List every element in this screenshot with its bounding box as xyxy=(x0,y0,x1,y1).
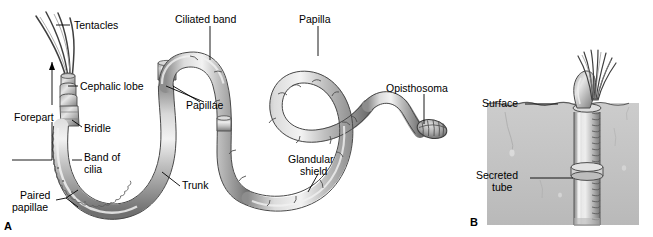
label-band-of-cilia-line1: Band of xyxy=(84,152,120,164)
label-bridle: Bridle xyxy=(84,123,111,135)
panel-b-illustration xyxy=(487,50,639,225)
label-surface: Surface xyxy=(482,98,518,110)
label-papillae: Papillae xyxy=(186,100,223,112)
label-tentacles: Tentacles xyxy=(74,20,118,32)
secreted-tube-illustration xyxy=(571,104,603,225)
label-secreted-tube-line2: tube xyxy=(492,182,512,194)
label-secreted-tube-line1: Secreted xyxy=(476,170,518,182)
label-band-of-cilia-line2: cilia xyxy=(84,164,102,176)
panel-letter-b: B xyxy=(470,216,478,228)
sediment-block xyxy=(487,103,639,225)
label-trunk: Trunk xyxy=(182,180,208,192)
label-ciliated-band: Ciliated band xyxy=(175,14,236,26)
label-forepart: Forepart xyxy=(14,112,54,124)
label-glandular-shield-line2: shield xyxy=(300,166,327,178)
label-paired-papillae-line2: papillae xyxy=(12,202,48,214)
tentacles-illustration xyxy=(36,12,74,79)
trunk-terminal-arm xyxy=(364,92,423,134)
cephalic-lobe-illustration xyxy=(60,73,77,109)
trunk-middle-loop xyxy=(245,71,372,211)
tube-collar-ring xyxy=(571,163,603,181)
label-glandular-shield-line1: Glandular xyxy=(288,154,334,166)
label-paired-papillae-line1: Paired xyxy=(20,190,50,202)
label-papilla: Papilla xyxy=(299,14,331,26)
pogonophoran-anatomy-figure xyxy=(0,0,653,237)
panel-a-illustration xyxy=(12,12,449,219)
label-cephalic-lobe: Cephalic lobe xyxy=(80,81,144,93)
label-opisthosoma: Opisthosoma xyxy=(386,83,448,95)
panel-letter-a: A xyxy=(4,220,12,232)
glandular-shield-illustration xyxy=(217,116,231,131)
